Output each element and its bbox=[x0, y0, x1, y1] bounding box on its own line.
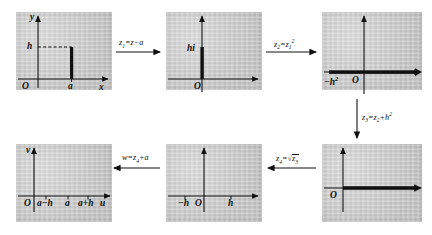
arrow-5-label: w=z4+a bbox=[122, 154, 149, 164]
arrow-3-plus: +h bbox=[380, 113, 390, 122]
arrow-4-radicand: z3 bbox=[292, 154, 299, 165]
arrow-2-label: z2=z12 bbox=[274, 39, 294, 51]
panel-6-v-axis-label: v bbox=[26, 146, 30, 156]
panel-6-a-label: a bbox=[65, 199, 70, 209]
panel-3-minus-h-squared-label: −h2 bbox=[324, 76, 338, 88]
panel-3-minus-h-text: −h bbox=[324, 77, 335, 87]
arrow-3-eq: =z bbox=[368, 113, 377, 122]
panel-2-origin-label: O bbox=[194, 82, 201, 92]
panel-3-axes bbox=[324, 16, 422, 94]
panel-1-y-axis-label: y bbox=[30, 13, 34, 23]
panel-1-h-tick-label: h bbox=[27, 42, 32, 52]
panel-5-h-label: h bbox=[228, 199, 233, 209]
arrow-3-label: z3=z2+h2 bbox=[362, 112, 392, 124]
panel-4-origin-label: O bbox=[330, 191, 337, 201]
arrow-4-inner-sub: 3 bbox=[295, 159, 298, 165]
panel-6-axes bbox=[18, 148, 110, 212]
arrow-1-label: z1=z−a bbox=[119, 39, 143, 49]
panel-1-origin-label: O bbox=[22, 82, 29, 92]
arrow-5-plus: +a bbox=[139, 153, 149, 162]
panel-1-axes bbox=[18, 16, 108, 88]
arrow-2-sup: 2 bbox=[292, 38, 295, 44]
conformal-mapping-figure: y x O a h O hi O −h2 O O −h h v u O a−h … bbox=[0, 0, 432, 235]
arrow-4-label: z4=√z3 bbox=[276, 154, 299, 165]
panel-6-u-axis-label: u bbox=[100, 199, 105, 209]
panel-5-origin-label: O bbox=[195, 199, 202, 209]
arrow-1-rest: =z−a bbox=[125, 38, 143, 47]
arrow-3-sup: 2 bbox=[389, 111, 392, 117]
arrow-2-eq: =z bbox=[280, 40, 289, 49]
panel-1-x-axis-label: x bbox=[99, 83, 104, 93]
panel-2-axes bbox=[168, 16, 258, 92]
panel-4-axes bbox=[324, 148, 422, 212]
arrow-5-eq: =z bbox=[127, 153, 136, 162]
panel-5-minus-h-label: −h bbox=[178, 199, 189, 209]
panel-3-exponent: 2 bbox=[335, 75, 338, 82]
panel-2-hi-label: hi bbox=[187, 44, 195, 54]
panel-6-origin-label: O bbox=[24, 199, 31, 209]
panel-3-origin-label: O bbox=[352, 76, 359, 86]
panel-6-a-plus-h-label: a+h bbox=[78, 199, 93, 209]
panel-1-a-tick-label: a bbox=[68, 82, 73, 92]
panel-6-a-minus-h-label: a−h bbox=[37, 199, 53, 209]
arrow-2-sub2: 1 bbox=[289, 44, 292, 50]
